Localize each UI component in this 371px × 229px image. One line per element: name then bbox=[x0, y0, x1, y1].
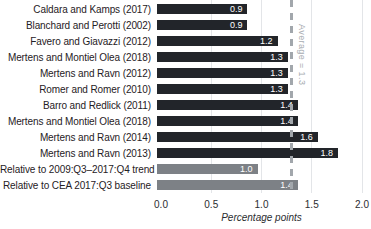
bar-track: 0.9 bbox=[157, 17, 358, 33]
bar-track: 1.3 bbox=[157, 49, 358, 65]
bar: 1.3 bbox=[157, 68, 288, 78]
bar-value-label: 1.4 bbox=[280, 117, 298, 126]
bar: 0.9 bbox=[157, 4, 247, 14]
bar-value-label: 1.3 bbox=[270, 69, 288, 78]
x-axis-label: Percentage points bbox=[161, 212, 362, 223]
bar-category-label: Mertens and Ravn (2014) bbox=[0, 132, 157, 143]
bar-value-label: 1.2 bbox=[260, 37, 278, 46]
bar-track: 1.3 bbox=[157, 81, 358, 97]
x-tick-label: 1.5 bbox=[305, 199, 319, 210]
x-tick-label: 0.5 bbox=[204, 199, 218, 210]
bar-value-label: 0.9 bbox=[230, 5, 248, 14]
chart-row: Caldara and Kamps (2017)0.9 bbox=[0, 1, 358, 17]
chart-row: Mertens and Ravn (2014)1.6 bbox=[0, 129, 358, 145]
bar-category-label: Caldara and Kamps (2017) bbox=[0, 4, 157, 15]
bar-track: 1.3 bbox=[157, 65, 358, 81]
bar-track: 1.4 bbox=[157, 113, 358, 129]
bar: 1.6 bbox=[157, 132, 318, 142]
bar: 1.4 bbox=[157, 100, 298, 110]
bar-track: 1.8 bbox=[157, 145, 358, 161]
bar-category-label: Mertens and Ravn (2012) bbox=[0, 68, 157, 79]
bar: 1.4 bbox=[157, 180, 298, 190]
bar: 1.8 bbox=[157, 148, 338, 158]
bar-value-label: 1.3 bbox=[270, 53, 288, 62]
bar-track: 1.2 bbox=[157, 33, 358, 49]
bar-value-label: 1.6 bbox=[300, 133, 318, 142]
chart-row: Barro and Redlick (2011)1.4 bbox=[0, 97, 358, 113]
x-tick-label: 1.0 bbox=[255, 199, 269, 210]
x-tick-label: 0.0 bbox=[154, 199, 168, 210]
bar-category-label: Favero and Giavazzi (2012) bbox=[0, 36, 157, 47]
bar-category-label: Relative to 2009:Q3–2017:Q4 trend bbox=[0, 164, 157, 175]
bar-track: 0.9 bbox=[157, 1, 358, 17]
chart-row: Relative to CEA 2017:Q3 baseline1.4 bbox=[0, 177, 358, 193]
bar: 1.4 bbox=[157, 116, 298, 126]
bar-value-label: 1.8 bbox=[320, 149, 338, 158]
average-label: Average = 1.3 bbox=[297, 24, 307, 85]
bar-category-label: Blanchard and Perotti (2002) bbox=[0, 20, 157, 31]
bar-track: 1.6 bbox=[157, 129, 358, 145]
x-tick-label: 2.0 bbox=[355, 199, 369, 210]
bar: 1.3 bbox=[157, 52, 288, 62]
bar-category-label: Mertens and Montiel Olea (2018) bbox=[0, 116, 157, 127]
bar-value-label: 1.3 bbox=[270, 85, 288, 94]
bar-category-label: Mertens and Montiel Olea (2018) bbox=[0, 52, 157, 63]
chart-row: Mertens and Ravn (2013)1.8 bbox=[0, 145, 358, 161]
bar-category-label: Mertens and Ravn (2013) bbox=[0, 148, 157, 159]
bar-track: 1.0 bbox=[157, 161, 358, 177]
chart-row: Mertens and Montiel Olea (2018)1.4 bbox=[0, 113, 358, 129]
bar-category-label: Barro and Redlick (2011) bbox=[0, 100, 157, 111]
bar-track: 1.4 bbox=[157, 97, 358, 113]
bar: 1.3 bbox=[157, 84, 288, 94]
bar-chart: Caldara and Kamps (2017)0.9Blanchard and… bbox=[0, 0, 371, 229]
bar-track: 1.4 bbox=[157, 177, 358, 193]
bar: 1.2 bbox=[157, 36, 278, 46]
bar-category-label: Relative to CEA 2017:Q3 baseline bbox=[0, 180, 157, 191]
bar-value-label: 1.4 bbox=[280, 101, 298, 110]
x-axis-ticks: 0.00.51.01.52.0 bbox=[161, 199, 362, 211]
bar-value-label: 1.4 bbox=[280, 181, 298, 190]
bar: 1.0 bbox=[157, 164, 258, 174]
bar: 0.9 bbox=[157, 20, 247, 30]
bar-value-label: 0.9 bbox=[230, 21, 248, 30]
bar-category-label: Romer and Romer (2010) bbox=[0, 84, 157, 95]
bar-value-label: 1.0 bbox=[240, 165, 258, 174]
gridline bbox=[362, 0, 363, 193]
chart-row: Relative to 2009:Q3–2017:Q4 trend1.0 bbox=[0, 161, 358, 177]
